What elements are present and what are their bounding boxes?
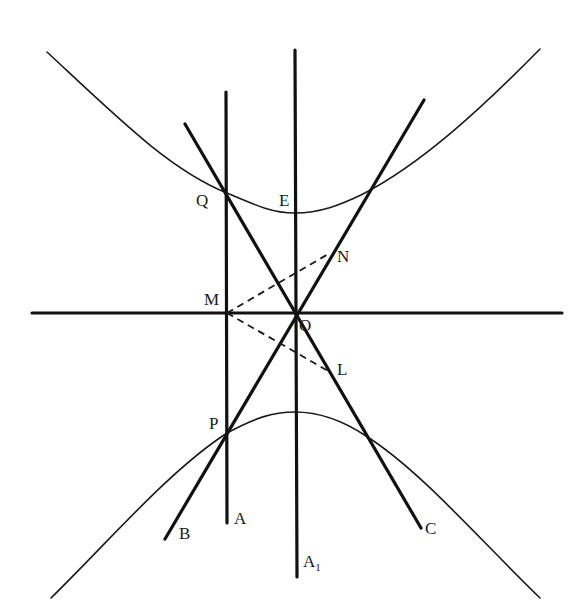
label-A1: A1 (303, 553, 321, 573)
label-N: N (337, 248, 349, 265)
label-L: L (337, 361, 347, 378)
label-C: C (425, 520, 436, 537)
label-O: O (299, 317, 311, 334)
label-E: E (279, 192, 289, 209)
vertical-line-A (226, 92, 227, 523)
label-A1-main: A (303, 552, 315, 571)
hyperbola-diagram: Q E N M O L P A B C A1 (0, 0, 585, 610)
label-A1-subscript: 1 (315, 561, 321, 573)
label-P: P (209, 415, 218, 432)
label-M: M (204, 291, 219, 308)
label-A: A (234, 510, 246, 527)
label-B: B (179, 525, 190, 542)
label-Q: Q (196, 192, 208, 209)
dashed-line-ML (227, 313, 330, 372)
diagram-svg (0, 0, 585, 610)
